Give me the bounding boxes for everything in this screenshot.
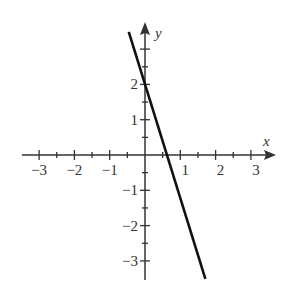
x-tick-label: 3 [252,162,260,178]
y-axis-label: y [153,25,162,41]
y-tick-label: −2 [122,218,138,234]
x-tick-label: −3 [31,162,47,178]
x-tick-label: −2 [66,162,82,178]
y-tick-label: 2 [131,76,139,92]
x-tick-label: 2 [217,162,225,178]
y-tick-label: −3 [122,253,138,269]
coordinate-plane: −3−2−1123−3−2−112 x y [0,0,288,292]
x-axis-label: x [262,133,270,149]
x-tick-label: 1 [182,162,190,178]
y-tick-label: −1 [122,182,138,198]
x-tick-label: −1 [102,162,118,178]
y-tick-label: 1 [131,112,139,128]
